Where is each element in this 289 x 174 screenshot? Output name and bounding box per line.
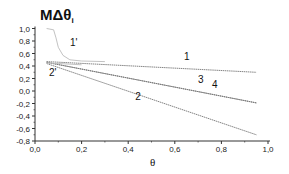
x-tick-label: 0,4 <box>123 145 135 154</box>
curve-1 <box>47 62 257 73</box>
x-tick-label: 0,8 <box>216 145 228 154</box>
x-axis-label: θ <box>150 156 155 168</box>
axes: 1,00,80,60,40,20,0-0,2-0,4-0,6-0,80,00,2… <box>16 25 274 155</box>
curves <box>47 29 257 135</box>
curve-2 <box>47 64 257 135</box>
y-tick-label: -0,2 <box>16 100 30 109</box>
curve-label-2-prime: 2' <box>49 67 57 78</box>
y-tick-label: 0,2 <box>19 75 31 84</box>
x-tick-label: 1,0 <box>262 145 274 154</box>
curve-label-3: 3 <box>198 74 204 85</box>
y-axis-title: MΔθi <box>40 6 74 25</box>
y-tick-label: 0,0 <box>19 87 31 96</box>
chart: 1,00,80,60,40,20,0-0,2-0,4-0,6-0,80,00,2… <box>0 0 289 174</box>
y-tick-label: 1,0 <box>19 25 31 34</box>
y-tick-label: 0,6 <box>19 50 31 59</box>
y-tick-label: -0,4 <box>16 112 30 121</box>
curve-label-1: 1 <box>184 51 190 62</box>
y-tick-label: -0,8 <box>16 137 30 146</box>
x-tick-label: 0,6 <box>169 145 181 154</box>
y-tick-label: 0,8 <box>19 37 31 46</box>
x-tick-label: 0,2 <box>76 145 88 154</box>
curve-label-4: 4 <box>212 79 218 90</box>
y-tick-label: 0,4 <box>19 62 31 71</box>
curve-label-1-prime: 1' <box>70 37 78 48</box>
x-tick-label: 0,0 <box>29 145 41 154</box>
y-tick-label: -0,6 <box>16 125 30 134</box>
curve-label-2: 2 <box>135 91 141 102</box>
curve-4 <box>47 62 257 103</box>
